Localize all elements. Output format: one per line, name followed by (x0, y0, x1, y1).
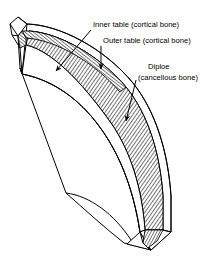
bottom-cut-end (127, 230, 171, 250)
diploe-label-line1: Diploe (148, 62, 170, 71)
under-surface-sweep (66, 193, 131, 240)
diploe-label-line2: (cancellous bone) (138, 73, 198, 82)
skull-cross-section-figure: Inner table (cortical bone) Outer table … (0, 0, 222, 264)
inner-table-label: Inner table (cortical bone) (93, 20, 180, 29)
outer-table-label: Outer table (cortical bone) (103, 36, 191, 45)
figure-canvas: Inner table (cortical bone) Outer table … (0, 0, 222, 264)
